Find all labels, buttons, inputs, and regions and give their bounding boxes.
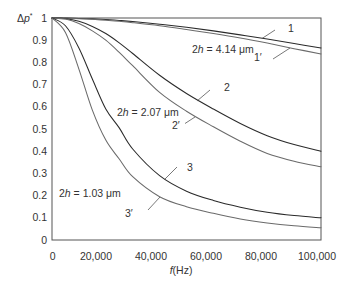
- y-tick-label: 0.7: [32, 78, 47, 90]
- y-tick-label: 0.6: [32, 100, 47, 112]
- x-tick-label: 60,000: [190, 250, 222, 262]
- y-tick-label: 0.4: [32, 145, 47, 157]
- curve-label-3: 3: [187, 161, 193, 173]
- y-tick-label: 0.3: [32, 167, 47, 179]
- x-axis-title: f(Hz): [170, 264, 193, 276]
- x-tick-label: 80,000: [245, 250, 277, 262]
- y-tick-label: 0.5: [32, 123, 47, 135]
- y-tick-label: 0.8: [32, 56, 47, 68]
- curve-label-1-prime: 1′: [254, 51, 262, 63]
- x-tick-label: 100,000: [298, 250, 336, 262]
- y-tick-label: 0.9: [32, 34, 47, 46]
- annotation-thickness-1-03: 2h = 1.03 μm: [59, 187, 121, 199]
- y-axis-title-sup: *: [30, 12, 33, 19]
- x-tick-label: 40,000: [135, 250, 167, 262]
- annotation-thickness-2-07: 2h = 2.07 μm: [117, 106, 179, 118]
- curve-label-1: 1: [288, 22, 294, 34]
- curve-label-3-prime: 3′: [125, 207, 133, 219]
- y-tick-label: 0.1: [32, 211, 47, 223]
- y-axis-title-delta: Δ: [17, 12, 24, 24]
- y-tick-label: 0.2: [32, 189, 47, 201]
- curve-label-2-prime: 2′: [172, 119, 180, 131]
- x-tick-label: 0: [50, 250, 56, 262]
- x-axis-title-unit: (Hz): [173, 264, 193, 276]
- y-tick-label: 1: [41, 12, 47, 24]
- annotation-value: = 1.03 μm: [71, 187, 121, 199]
- annotation-thickness-4-14: 2h = 4.14 μm: [192, 43, 254, 55]
- x-tick-label: 20,000: [80, 250, 112, 262]
- y-tick-label: 0: [41, 234, 47, 246]
- annotation-value: = 2.07 μm: [129, 106, 179, 118]
- curve-label-2: 2: [224, 81, 230, 93]
- annotation-value: = 4.14 μm: [204, 43, 254, 55]
- line-chart: Δp* 1 0.9 0.8 0.7 0.6 0.5 0.4 0.3 0.2 0.…: [0, 0, 352, 285]
- chart-background: [0, 0, 352, 285]
